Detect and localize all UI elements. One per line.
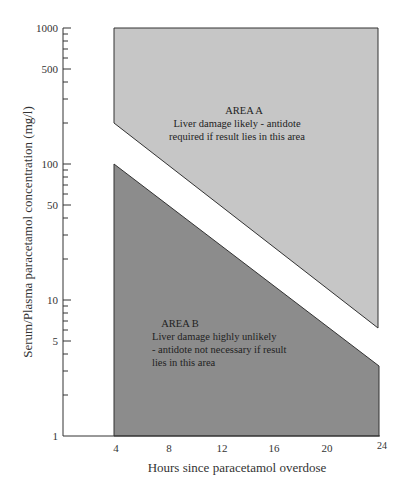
y-tick-label: 1000 [36, 22, 59, 34]
y-tick-label: 50 [47, 199, 59, 211]
x-tick-label: 16 [269, 442, 281, 454]
area-a-line-2: required if result lies in this area [169, 131, 305, 142]
area-b-line-2: - antidote not necessary if result [152, 344, 286, 355]
x-tick-label: 20 [322, 442, 334, 454]
x-tick-label: 4 [113, 442, 119, 454]
x-tick-label: 12 [217, 442, 228, 454]
y-tick-label: 10 [47, 294, 59, 306]
y-tick-label: 1 [53, 430, 59, 442]
y-axis-ticks [63, 28, 71, 395]
x-axis-title: Hours since paracetamol overdose [148, 460, 327, 475]
paracetamol-nomogram-chart: 1000 500 100 50 10 5 1 4 8 12 16 20 24 H… [0, 0, 405, 483]
area-b-line-1: Liver damage highly unlikely [152, 331, 277, 342]
y-tick-label: 500 [42, 63, 59, 75]
area-a-line-1: Liver damage likely - antidote [173, 118, 300, 129]
area-b-line-3: lies in this area [152, 357, 216, 368]
area-a-title: AREA A [225, 105, 263, 116]
y-tick-label: 100 [42, 158, 59, 170]
y-tick-label: 5 [53, 335, 59, 347]
x-tick-label: 8 [166, 442, 172, 454]
y-axis-title: Serum/Plasma paracetamol concentration (… [20, 106, 35, 358]
area-b-title: AREA B [161, 318, 199, 329]
x-tick-label: 24 [377, 440, 387, 451]
